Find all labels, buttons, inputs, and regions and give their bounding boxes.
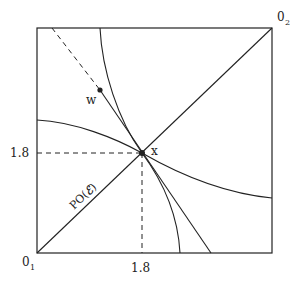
origin-agent2: 0 2 xyxy=(277,10,290,27)
tick-label-y-1.8: 1.8 xyxy=(10,146,29,160)
contract-curve-line xyxy=(37,28,272,253)
contract-curve-label: PO(ℰ) xyxy=(67,181,99,213)
svg-text:0: 0 xyxy=(277,10,285,24)
indifference-curve-agent2 xyxy=(100,28,180,253)
label-w: w xyxy=(86,93,97,107)
price-line-dashed-extension xyxy=(52,28,100,90)
tick-label-x-1.8: 1.8 xyxy=(131,261,150,275)
point-w xyxy=(97,87,102,92)
edgeworth-box-diagram: w x 1.8 1.8 0 1 0 2 PO(ℰ) xyxy=(0,0,302,284)
price-line xyxy=(100,90,211,253)
svg-text:PO(ℰ): PO(ℰ) xyxy=(67,181,99,213)
label-x: x xyxy=(151,144,158,158)
svg-text:2: 2 xyxy=(285,18,290,27)
indifference-curve-agent1 xyxy=(37,120,272,198)
point-x xyxy=(139,150,145,156)
origin-agent1: 0 1 xyxy=(22,255,35,272)
svg-text:0: 0 xyxy=(22,255,30,269)
svg-text:1: 1 xyxy=(30,263,35,272)
